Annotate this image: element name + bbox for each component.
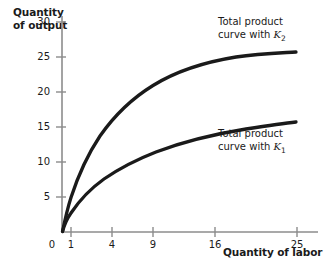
curve-label-k1-subscript: 1 — [281, 146, 286, 155]
curve-label-k1-line2: curve with K1 — [218, 141, 328, 158]
x-tick-label-4: 4 — [101, 239, 123, 250]
total-product-curve-chart: Quantity of output 5 10 1 — [0, 0, 330, 271]
y-tick-label-20: 20 — [28, 86, 50, 97]
curve-label-k2-symbol: K — [274, 29, 281, 40]
y-tick-label-15: 15 — [28, 121, 50, 132]
x-tick-label-1: 1 — [60, 239, 82, 250]
curve-label-k2-prefix: curve with — [218, 29, 274, 40]
x-axis-title: Quantity of labor — [223, 246, 327, 259]
curve-label-k2-subscript: 2 — [281, 34, 286, 43]
curve-label-k1-prefix: curve with — [218, 141, 274, 152]
y-tick-label-10: 10 — [28, 156, 50, 167]
y-tick-label-25: 25 — [28, 51, 50, 62]
curve-label-k1: Total product curve with K1 — [218, 128, 328, 157]
curve-label-k2: Total product curve with K2 — [218, 16, 328, 45]
curve-label-k1-symbol: K — [274, 141, 281, 152]
x-tick-label-9: 9 — [142, 239, 164, 250]
y-tick-label-5: 5 — [28, 191, 50, 202]
curve-label-k1-line1: Total product — [218, 128, 328, 141]
y-tick-label-30: 30 — [28, 16, 50, 27]
curve-label-k2-line1: Total product — [218, 16, 328, 29]
y-axis-ticks — [56, 22, 66, 197]
curve-label-k2-line2: curve with K2 — [218, 29, 328, 46]
